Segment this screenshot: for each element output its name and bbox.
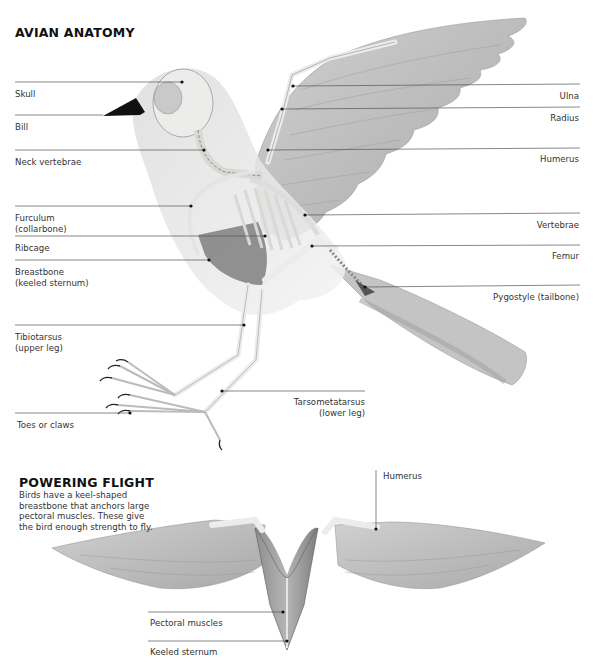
- label-vertebrae: Vertebrae: [537, 220, 579, 231]
- flight-title: POWERING FLIGHT: [19, 475, 154, 490]
- label-ribcage: Ribcage: [15, 243, 50, 254]
- label-femur: Femur: [552, 251, 579, 262]
- label-pectoral-muscles: Pectoral muscles: [150, 618, 223, 629]
- right-wing: [335, 522, 545, 589]
- label-radius: Radius: [550, 113, 579, 124]
- label-humerus: Humerus: [540, 154, 579, 165]
- label-tibiotarsus: Tibiotarsus (upper leg): [15, 332, 63, 353]
- label-breastbone: Breastbone (keeled sternum): [15, 267, 89, 288]
- label-bill: Bill: [15, 122, 28, 133]
- label-flight-humerus: Humerus: [383, 471, 422, 482]
- label-keeled-sternum: Keeled sternum: [150, 647, 217, 658]
- flight-illustration: [52, 520, 545, 650]
- toes: [112, 362, 220, 440]
- label-ulna: Ulna: [560, 91, 579, 102]
- label-skull: Skull: [15, 89, 35, 100]
- label-furculum: Furculum (collarbone): [15, 213, 67, 234]
- label-pygostyle: Pygostyle (tailbone): [493, 292, 579, 303]
- anatomy-illustration: [0, 0, 593, 669]
- main-title: AVIAN ANATOMY: [15, 25, 135, 40]
- label-neck-vertebrae: Neck vertebrae: [15, 157, 81, 168]
- label-toes: Toes or claws: [17, 420, 74, 431]
- label-tarsometatarsus: Tarsometatarsus (lower leg): [255, 397, 365, 418]
- bird-illustration: [100, 18, 527, 450]
- flight-description: Birds have a keel-shaped breastbone that…: [19, 490, 159, 532]
